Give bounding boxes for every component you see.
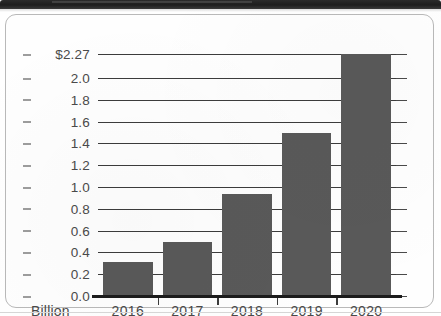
y-axis-tick-dash: [23, 274, 31, 275]
right-axis-tick: [396, 143, 407, 144]
bar-2017: [163, 242, 213, 297]
y-axis-tick-label: 0.2: [32, 267, 90, 282]
y-axis-tick-label: 1.2: [32, 158, 90, 173]
y-axis-tick-dash: [23, 100, 31, 101]
y-axis-tick-dash: [23, 78, 31, 79]
right-axis-tick: [396, 122, 407, 123]
bar-2016: [103, 262, 153, 296]
y-axis-tick-label: 1.8: [32, 92, 90, 107]
right-axis-tick: [396, 78, 407, 79]
y-axis-tick-label: 1.0: [32, 180, 90, 195]
right-axis-tick: [396, 209, 407, 210]
y-axis-tick-label: 1.6: [32, 114, 90, 129]
page-bottom-edge: [0, 312, 441, 313]
right-axis-tick: [396, 187, 407, 188]
right-axis-tick: [396, 100, 407, 101]
y-axis-tick-label: 1.4: [32, 136, 90, 151]
right-axis-tick: [396, 274, 407, 275]
y-axis-tick-dash: [23, 54, 31, 55]
header-bar-shadow: [0, 9, 441, 12]
header-bar-sheen: [52, 1, 252, 3]
y-axis-tick-dash: [23, 231, 31, 232]
bar-2019: [282, 133, 332, 297]
y-axis-tick-dash: [23, 209, 31, 210]
right-axis-tick: [396, 231, 407, 232]
x-axis-label-2018: 2018: [231, 303, 263, 316]
bar-2018: [222, 194, 272, 296]
y-axis-tick-label: $2.27: [32, 47, 90, 62]
bar-2020: [341, 54, 391, 296]
x-axis-label-2017: 2017: [171, 303, 203, 316]
y-axis-tick-label: 0.0: [32, 289, 90, 304]
plot-area: [98, 54, 396, 296]
y-axis-tick-label: 0.4: [32, 245, 90, 260]
y-axis-tick-label: 0.8: [32, 201, 90, 216]
x-axis-labels: 20162017201820192020: [98, 303, 396, 316]
y-axis-tick-dash: [23, 122, 31, 123]
y-axis-tick-dash: [23, 296, 31, 297]
x-axis-label-2019: 2019: [290, 303, 322, 316]
y-axis-tick-dash: [23, 143, 31, 144]
right-axis-ticks: [396, 54, 414, 296]
y-axis-labels: $2.272.01.81.61.41.21.00.80.60.40.20.0: [26, 54, 90, 296]
right-axis-tick: [396, 252, 407, 253]
y-axis-tick-dash: [23, 252, 31, 253]
right-axis-tick: [396, 165, 407, 166]
y-axis-tick-dash: [23, 165, 31, 166]
unit-label: Billion: [31, 303, 70, 316]
x-axis-label-2016: 2016: [112, 303, 144, 316]
x-axis-label-2020: 2020: [350, 303, 382, 316]
chart-card: $2.272.01.81.61.41.21.00.80.60.40.20.0 B…: [5, 14, 434, 308]
page-header-bar: [0, 0, 441, 9]
y-axis-tick-label: 0.6: [32, 223, 90, 238]
y-axis-tick-dash: [23, 187, 31, 188]
y-axis-tick-label: 2.0: [32, 71, 90, 86]
right-axis-tick: [396, 54, 407, 55]
